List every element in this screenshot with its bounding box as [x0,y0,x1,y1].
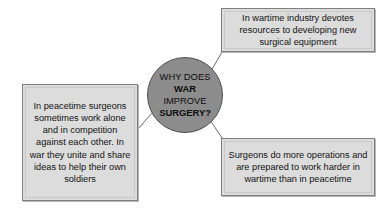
node-box-left-label: In peacetime surgeons sometimes work alo… [28,100,132,185]
connector-center-to-left-box [138,113,152,129]
center-line-1: WHY DOES [160,71,211,83]
concept-map-diagram: In wartime industry devotes resources to… [0,0,383,209]
node-box-bottom-label: Surgeons do more operations and are prep… [227,149,369,185]
node-box-bottom: Surgeons do more operations and are prep… [221,138,375,196]
center-line-2: WAR [174,83,196,95]
node-box-top-label: In wartime industry devotes resources to… [227,12,369,48]
center-line-3: IMPROVE [163,95,206,107]
node-box-top: In wartime industry devotes resources to… [221,8,375,52]
center-node-circle: WHY DOES WAR IMPROVE SURGERY? [147,57,223,133]
center-line-4: SURGERY? [159,107,211,119]
connector-center-to-bottom-box [210,120,222,138]
node-box-left: In peacetime surgeons sometimes work alo… [22,84,138,201]
